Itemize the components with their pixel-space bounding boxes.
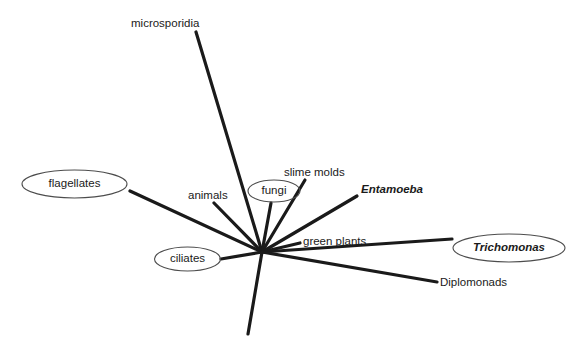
phylogenetic-tree-figure: microsporidia flagellates animals fungi …	[0, 0, 576, 347]
branch-diplomonads	[262, 252, 437, 282]
taxon-label-flagellates: flagellates	[22, 178, 127, 190]
taxon-label-animals: animals	[188, 190, 228, 202]
branch-unlabeled-root	[248, 252, 262, 334]
taxon-label-entamoeba: Entamoeba	[361, 184, 423, 196]
taxon-label-ciliates: ciliates	[155, 253, 220, 265]
taxon-label-diplomonads: Diplomonads	[440, 277, 507, 289]
taxon-label-slime-molds: slime molds	[284, 167, 345, 179]
taxon-label-green-plants: green plants	[303, 236, 366, 248]
taxon-label-fungi: fungi	[248, 185, 300, 197]
taxon-label-trichomonas: Trichomonas	[453, 242, 565, 254]
branch-ciliates	[221, 252, 262, 259]
taxon-label-microsporidia: microsporidia	[131, 18, 199, 30]
